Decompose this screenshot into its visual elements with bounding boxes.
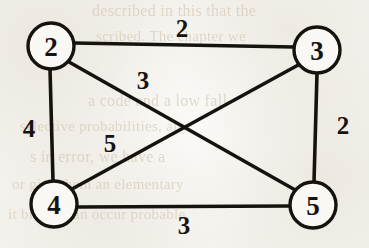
graph-node-label-5: 5 — [306, 191, 320, 221]
graph-edge-2-3 — [74, 43, 294, 47]
graph-edge-2-4 — [50, 69, 53, 181]
edge-weight-4-3: 5 — [104, 130, 117, 157]
figure-canvas: described in this that thescribed. The c… — [0, 0, 369, 248]
graph-node-label-2: 2 — [44, 32, 58, 62]
edge-weight-4-5: 3 — [178, 212, 191, 239]
graph-node-4: 4 — [31, 181, 77, 227]
edge-weight-2-4: 4 — [23, 115, 36, 142]
graph-edge-4-5 — [77, 206, 290, 207]
edge-weight-2-5: 3 — [137, 67, 150, 94]
graph-node-2: 2 — [28, 23, 74, 69]
graph-edge-3-5 — [314, 73, 317, 182]
edge-weight-2-3: 2 — [176, 15, 189, 42]
graph-node-3: 3 — [294, 27, 340, 73]
graph-diagram: 2345 242335 — [0, 0, 369, 248]
graph-node-label-3: 3 — [310, 36, 324, 66]
graph-node-5: 5 — [290, 182, 336, 228]
edge-layer — [50, 43, 317, 207]
graph-node-label-4: 4 — [47, 190, 61, 220]
edge-weight-3-5: 2 — [337, 112, 350, 139]
